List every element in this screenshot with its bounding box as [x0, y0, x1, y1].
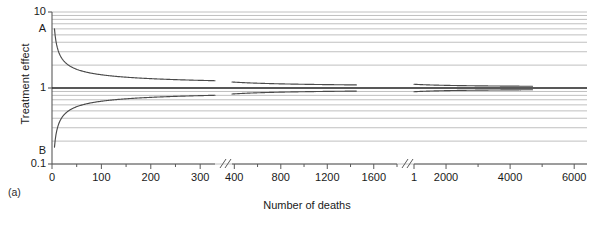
lower-bound-segment-1	[54, 95, 215, 147]
x-axis-ticks	[52, 164, 574, 169]
funnel-plot-figure: Treatment effect Number of deaths (a) 10…	[0, 0, 614, 227]
y-axis-ticks	[48, 12, 52, 164]
upper-bound-segment-3	[414, 84, 533, 86]
upper-bound-segment-2	[232, 82, 356, 85]
plot-canvas	[0, 0, 614, 227]
upper-bound-segment-1	[54, 29, 215, 81]
